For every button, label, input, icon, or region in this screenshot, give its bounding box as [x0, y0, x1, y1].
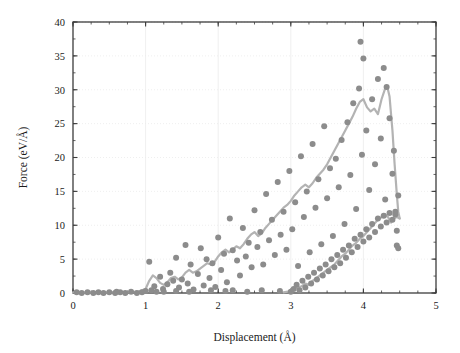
data-point — [355, 244, 361, 250]
x-tick-label: 0 — [70, 300, 75, 311]
data-point — [359, 152, 365, 158]
data-point — [198, 245, 204, 251]
data-point — [254, 244, 260, 250]
data-point — [278, 232, 284, 238]
data-point — [257, 229, 263, 235]
data-point — [358, 232, 364, 238]
data-point — [224, 279, 230, 285]
data-point — [356, 85, 362, 91]
data-point — [395, 245, 401, 251]
data-point — [312, 205, 318, 211]
data-point — [275, 179, 281, 185]
data-point — [188, 262, 194, 268]
data-point — [389, 171, 395, 177]
data-point — [384, 84, 390, 90]
scatter-plot: 012345 0510152025303540 Displacement (Å)… — [0, 0, 460, 353]
y-tick-label: 15 — [55, 186, 66, 197]
y-tick-label: 25 — [55, 118, 66, 129]
data-point — [237, 272, 243, 278]
x-tick-label: 1 — [143, 300, 148, 311]
data-point — [227, 215, 233, 221]
data-point — [269, 217, 275, 223]
data-point — [323, 262, 329, 268]
data-point — [336, 184, 342, 190]
data-point — [221, 251, 227, 257]
data-point — [244, 289, 250, 295]
data-point — [259, 287, 265, 293]
data-point — [153, 289, 159, 295]
data-point — [317, 266, 323, 272]
data-point — [143, 288, 149, 294]
data-point — [394, 228, 400, 234]
data-point — [179, 276, 185, 282]
data-point — [382, 197, 388, 203]
data-point — [170, 278, 176, 284]
data-point — [327, 165, 333, 171]
data-point — [208, 287, 214, 293]
data-point — [260, 262, 266, 268]
data-point — [387, 210, 393, 216]
data-point — [353, 206, 359, 212]
data-point — [369, 96, 375, 102]
data-point — [272, 252, 278, 258]
data-point — [90, 290, 96, 296]
data-point — [266, 237, 272, 243]
data-point — [195, 271, 201, 277]
data-point — [122, 290, 128, 296]
data-point — [292, 199, 298, 205]
data-point — [305, 274, 311, 280]
data-point — [320, 272, 326, 278]
data-point — [369, 221, 375, 227]
data-point — [343, 255, 349, 261]
data-point — [100, 290, 106, 296]
data-point — [307, 249, 313, 255]
data-point — [294, 282, 300, 288]
data-point — [372, 229, 378, 235]
x-tick-label: 4 — [361, 300, 367, 311]
data-point — [391, 148, 397, 154]
data-point — [301, 214, 307, 220]
data-point — [366, 187, 372, 193]
data-point — [252, 207, 258, 213]
data-point — [340, 247, 346, 253]
data-point — [161, 289, 167, 295]
data-point — [299, 278, 305, 284]
y-tick-label: 5 — [60, 254, 65, 265]
data-point — [330, 233, 336, 239]
data-point — [347, 172, 353, 178]
data-point — [167, 270, 173, 276]
data-point — [326, 268, 332, 274]
data-point — [246, 240, 252, 246]
data-point — [339, 137, 345, 143]
data-point — [375, 215, 381, 221]
data-point — [324, 195, 330, 201]
data-point — [342, 221, 348, 227]
data-point — [331, 264, 337, 270]
data-point — [395, 192, 401, 198]
data-point — [387, 115, 393, 121]
data-point — [146, 259, 152, 265]
data-point — [295, 263, 301, 269]
data-point — [311, 270, 317, 276]
data-point — [277, 288, 283, 294]
data-point — [337, 260, 343, 266]
data-point — [375, 76, 381, 82]
data-point — [230, 287, 236, 293]
data-point — [74, 289, 80, 295]
data-point — [164, 281, 170, 287]
data-point — [298, 153, 304, 159]
data-point — [173, 255, 179, 261]
data-point — [363, 226, 369, 232]
data-point — [209, 260, 215, 266]
x-tick-label: 3 — [288, 300, 293, 311]
data-point — [297, 287, 303, 293]
data-point — [283, 247, 289, 253]
data-point — [302, 285, 308, 291]
y-tick-label: 40 — [55, 17, 66, 28]
figure-container: 012345 0510152025303540 Displacement (Å)… — [0, 0, 460, 353]
data-point — [128, 289, 134, 295]
data-point — [85, 289, 91, 295]
data-point — [201, 283, 207, 289]
data-point — [363, 127, 369, 133]
data-point — [222, 288, 228, 294]
